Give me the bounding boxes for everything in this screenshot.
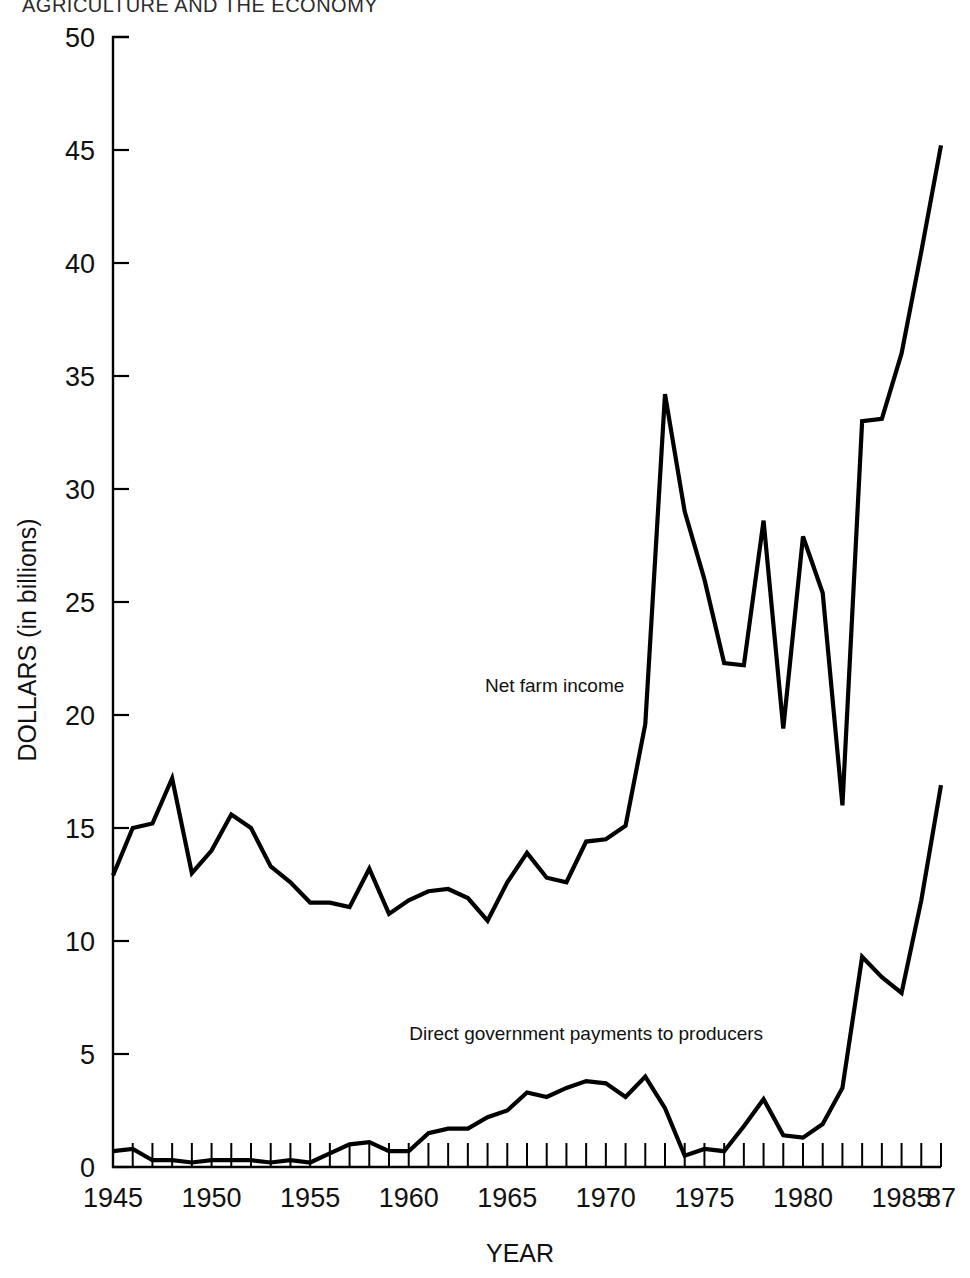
y-axis-tick-label: 0 <box>80 1153 95 1183</box>
y-axis-tick-label: 35 <box>65 362 95 392</box>
x-axis-tick-label: 1965 <box>477 1183 537 1213</box>
y-axis-tick-label: 50 <box>65 23 95 53</box>
x-axis-tick-label: 1980 <box>773 1183 833 1213</box>
data-series-group <box>113 145 941 1162</box>
series-line-2 <box>113 785 941 1162</box>
x-axis-tick-labels: 19451950195519601965197019751980198587 <box>83 1183 956 1213</box>
series-annotation-1: Net farm income <box>485 675 624 696</box>
line-chart: 05101520253035404550 1945195019551960196… <box>0 0 970 1278</box>
series-annotations: Net farm incomeDirect government payment… <box>409 675 763 1044</box>
y-axis-tick-label: 5 <box>80 1040 95 1070</box>
y-axis-tick-label: 15 <box>65 814 95 844</box>
x-axis-title: YEAR <box>486 1239 554 1267</box>
y-axis-tick-label: 25 <box>65 588 95 618</box>
series-annotation-2: Direct government payments to producers <box>409 1023 763 1044</box>
x-axis-minor-ticks <box>113 1143 941 1167</box>
y-axis-tick-label: 10 <box>65 927 95 957</box>
y-axis-tick-label: 45 <box>65 136 95 166</box>
x-axis-tick-label: 1975 <box>674 1183 734 1213</box>
x-axis-tick-label: 1950 <box>182 1183 242 1213</box>
series-line-1 <box>113 145 941 920</box>
axis-frame <box>113 37 941 1167</box>
x-axis-tick-label: 1970 <box>576 1183 636 1213</box>
x-axis-tick-label: 1945 <box>83 1183 143 1213</box>
x-axis-tick-label: 1955 <box>280 1183 340 1213</box>
x-axis-tick-label: 1960 <box>379 1183 439 1213</box>
y-axis-title: DOLLARS (in billions) <box>13 518 41 761</box>
y-axis-tick-label: 40 <box>65 249 95 279</box>
x-axis-tick-label: 87 <box>926 1183 956 1213</box>
y-axis-tick-label: 30 <box>65 475 95 505</box>
y-axis-tick-label: 20 <box>65 701 95 731</box>
y-axis-tick-labels: 05101520253035404550 <box>65 23 95 1183</box>
chart-container: 05101520253035404550 1945195019551960196… <box>0 0 970 1278</box>
axis-major-ticks <box>113 150 129 1167</box>
x-axis-tick-label: 1985 <box>872 1183 932 1213</box>
